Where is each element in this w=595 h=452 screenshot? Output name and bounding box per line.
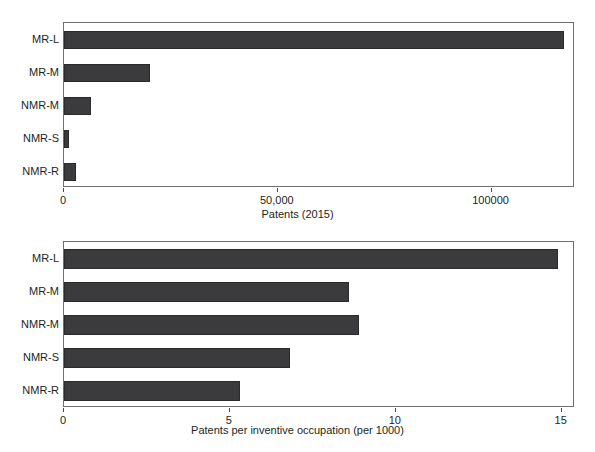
category-label-nmr-r: NMR-R (1, 165, 59, 177)
category-label-nmr-s: NMR-S (1, 132, 59, 144)
x-tick-label: 0 (60, 194, 66, 206)
plot-frame-top (63, 22, 574, 187)
x-axis-title-top: Patents (2015) (0, 208, 595, 221)
x-tick-label: 50,000 (260, 194, 294, 206)
bar-nmr-r (64, 163, 76, 181)
bar-mr-m (64, 64, 150, 82)
chart-panel-top: MR-LMR-MNMR-MNMR-SNMR-R 050,000100000 Pa… (0, 18, 595, 223)
bar-row (64, 89, 573, 122)
bar-row (64, 275, 573, 308)
x-tick-mark (277, 188, 278, 192)
bar-row (64, 309, 573, 342)
x-tick-mark (491, 188, 492, 192)
category-label-mr-m: MR-M (1, 285, 59, 297)
x-tick-mark (229, 408, 230, 412)
category-label-nmr-s: NMR-S (1, 351, 59, 363)
plot-frame-bottom (63, 241, 574, 407)
x-tick-mark (561, 408, 562, 412)
x-axis-title-bottom: Patents per inventive occupation (per 10… (0, 424, 595, 437)
x-tick-mark (63, 188, 64, 192)
cropped-figure-header (40, 0, 560, 9)
bar-row (64, 155, 573, 188)
category-label-mr-l: MR-L (1, 33, 59, 45)
bar-nmr-s (64, 348, 290, 368)
category-label-nmr-m: NMR-M (1, 318, 59, 330)
bar-row (64, 23, 573, 56)
bar-row (64, 242, 573, 275)
chart-panel-bottom: MR-LMR-MNMR-MNMR-SNMR-R 051015 Patents p… (0, 237, 595, 450)
figure-canvas: MR-LMR-MNMR-MNMR-SNMR-R 050,000100000 Pa… (0, 0, 595, 452)
bar-mr-l (64, 249, 558, 269)
category-label-nmr-r: NMR-R (1, 384, 59, 396)
bars-layer-bottom (64, 242, 573, 406)
bar-row (64, 122, 573, 155)
bar-nmr-r (64, 381, 240, 401)
bar-nmr-m (64, 315, 359, 335)
bar-row (64, 375, 573, 408)
bars-layer-top (64, 23, 573, 186)
bar-row (64, 342, 573, 375)
bar-row (64, 56, 573, 89)
x-tick-mark (63, 408, 64, 412)
bar-nmr-m (64, 97, 91, 115)
category-label-mr-l: MR-L (1, 252, 59, 264)
x-tick-mark (395, 408, 396, 412)
bar-mr-m (64, 282, 349, 302)
category-label-nmr-m: NMR-M (1, 99, 59, 111)
bar-nmr-s (64, 130, 69, 148)
category-label-mr-m: MR-M (1, 66, 59, 78)
bar-mr-l (64, 31, 564, 49)
x-tick-label: 100000 (472, 194, 509, 206)
